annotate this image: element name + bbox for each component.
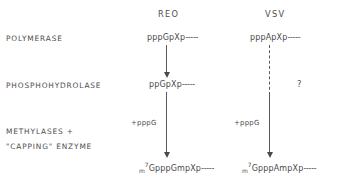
vsv-polymerase-product: pppApXp-----: [250, 34, 300, 42]
vsv-arrow-top-dashed-shaft: [269, 45, 270, 95]
reo-cofactor-label: +pppG: [131, 120, 157, 127]
row-label-polymerase: POLYMERASE: [6, 35, 63, 42]
reo-polymerase-product-dashes: -----: [185, 33, 198, 42]
vsv-capped-product: m7GpppAmpXp-----: [242, 162, 316, 174]
reo-arrow-top-shaft: [166, 45, 167, 74]
vsv-capped-product-dashes: -----: [303, 164, 316, 173]
vsv-uncertainty-question-mark: ?: [297, 80, 302, 89]
row-label-phosphohydrolase: PHOSPHOHYDROLASE: [6, 82, 101, 89]
reo-phosphohydrolase-product-chain: ppGpXp: [149, 80, 182, 89]
vsv-capped-product-m: m: [242, 167, 248, 174]
vsv-arrow-bottom-head: [267, 152, 273, 158]
row-label-methylases-line1: METHYLASES +: [6, 128, 74, 135]
reo-phosphohydrolase-product-dashes: -----: [182, 80, 195, 89]
vsv-capped-product-chain: GpppAmpXp: [252, 164, 304, 173]
reo-capped-product-m: m: [139, 167, 145, 174]
pathway-diagram: REO VSV POLYMERASE PHOSPHOHYDROLASE METH…: [0, 0, 338, 185]
vsv-cofactor-label: +pppG: [234, 120, 260, 127]
row-label-capping-enzyme-line2: "CAPPING" ENZYME: [6, 143, 92, 150]
reo-arrow-bottom-head: [164, 152, 170, 158]
reo-phosphohydrolase-product: ppGpXp-----: [149, 81, 195, 89]
reo-polymerase-product-chain: pppGpXp: [147, 33, 185, 42]
reo-capped-product: m7GpppGmpXp-----: [139, 162, 214, 174]
column-header-vsv: VSV: [265, 10, 285, 18]
vsv-polymerase-product-dashes: -----: [287, 33, 300, 42]
reo-arrow-bottom-shaft: [166, 92, 167, 154]
reo-capped-product-chain: GpppGmpXp: [149, 164, 201, 173]
column-header-reo: REO: [158, 10, 179, 18]
vsv-arrow-bottom-shaft: [269, 95, 270, 154]
vsv-polymerase-product-chain: pppApXp: [250, 33, 287, 42]
reo-capped-product-dashes: -----: [201, 164, 214, 173]
reo-polymerase-product: pppGpXp-----: [147, 34, 198, 42]
reo-arrow-top-head: [164, 72, 170, 78]
